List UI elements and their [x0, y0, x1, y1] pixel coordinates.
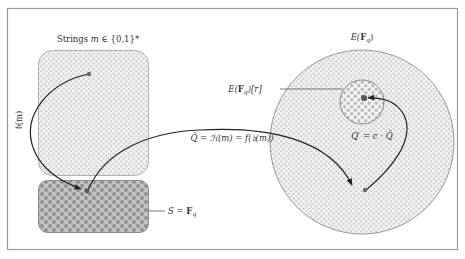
subgroup-point: [361, 95, 367, 101]
h-of-m-label: 𝔥(m): [14, 111, 24, 130]
subgroup-circle: [340, 80, 384, 124]
curve-point: [363, 188, 367, 192]
cofactor-label: Q′ = c · Q̂: [351, 130, 392, 141]
field-region: [39, 181, 149, 233]
field-point: [85, 189, 90, 194]
curve-group-circle: [270, 50, 454, 234]
strings-region: [39, 51, 149, 176]
diagram-canvas: Strings m ∈ {0,1}* E(Fq) E(Fq)[r] Q̂ = ℋ…: [0, 0, 465, 259]
hash-map-label: Q̂ = ℋ(m) = f(𝔥(m)): [190, 132, 273, 143]
strings-label: Strings m ∈ {0,1}*: [57, 34, 140, 44]
string-point: [87, 72, 91, 76]
